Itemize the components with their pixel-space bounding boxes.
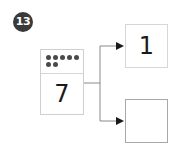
part-box-answer[interactable] [125,99,168,143]
part-box-known: 1 [125,24,168,68]
arrow-head-top-icon [116,42,124,50]
arrow-head-bottom-icon [116,117,124,125]
